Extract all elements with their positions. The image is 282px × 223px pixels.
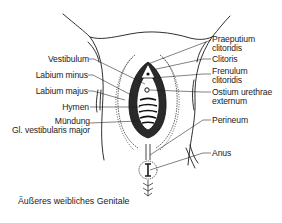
figure-caption: Äußeres weibliches Genitale bbox=[18, 196, 129, 206]
gluteal-cleft bbox=[143, 180, 153, 196]
leader-praeputium bbox=[148, 40, 211, 64]
label-perineum: Perineum bbox=[212, 116, 248, 125]
label-praeputium-clitoridis: Praeputium clitoridis bbox=[212, 35, 255, 53]
left-thigh-crease bbox=[96, 90, 98, 112]
label-frenulum-clitoridis: Frenulum clitoridis bbox=[212, 67, 248, 85]
label-muendung-line2: Gl. vestibularis major bbox=[12, 126, 90, 135]
label-ostium-line2: externum bbox=[212, 97, 272, 106]
label-hymen: Hymen bbox=[62, 103, 89, 112]
label-labium-majus: Labium majus bbox=[36, 87, 88, 96]
clitoris-mark bbox=[146, 72, 149, 75]
leader-labium-majus bbox=[88, 91, 125, 100]
label-labium-minus: Labium minus bbox=[36, 71, 88, 80]
abdomen-outline bbox=[63, 14, 230, 39]
leader-muendung bbox=[90, 121, 138, 123]
label-clitoris: Clitoris bbox=[212, 55, 237, 64]
label-muendung: Mündung Gl. vestibularis major bbox=[12, 117, 90, 135]
leader-frenulum bbox=[153, 74, 211, 78]
leader-labium-minus bbox=[88, 75, 133, 96]
label-vestibulum: Vestibulum bbox=[48, 55, 89, 64]
label-ostium-urethrae-externum: Ostium urethrae externum bbox=[212, 88, 272, 106]
leader-anus bbox=[150, 153, 211, 170]
label-anus: Anus bbox=[212, 149, 231, 158]
right-thigh-crease bbox=[193, 80, 195, 110]
right-thigh-outline bbox=[188, 37, 212, 165]
leader-clitoris bbox=[152, 59, 211, 70]
perineum-raphe bbox=[146, 144, 150, 160]
label-praeputium-line2: clitoridis bbox=[212, 44, 255, 53]
label-frenulum-line2: clitoridis bbox=[212, 76, 248, 85]
